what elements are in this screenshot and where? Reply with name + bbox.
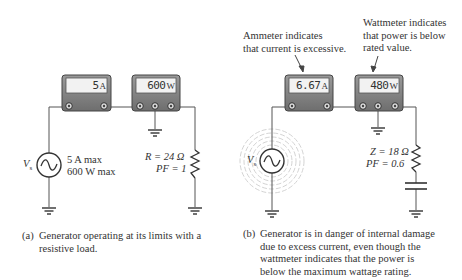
capacitor-icon xyxy=(405,183,427,189)
ammeter-a-display: 5A xyxy=(66,80,106,92)
ground-icon xyxy=(42,208,56,214)
wattmeter-b-value: 480 xyxy=(370,79,388,92)
ammeter-a-unit: A xyxy=(100,81,107,91)
annotation-wattmeter: Wattmeter indicates that power is below … xyxy=(363,17,446,55)
source-a-label: Vs xyxy=(23,158,32,175)
ammeter-a-value: 5 xyxy=(92,79,98,92)
source-b-label: Vs xyxy=(247,154,256,171)
caption-a-text: Generator operating at its limits with a… xyxy=(39,230,201,255)
load-b-impedance: Z = 18 Ω xyxy=(370,146,409,159)
caption-b-label: (b) xyxy=(243,228,255,241)
resistor-icon xyxy=(412,145,420,172)
ammeter-b-display: 6.67A xyxy=(289,80,328,92)
ammeter-b-unit: A xyxy=(322,81,329,91)
figure-a xyxy=(37,75,202,214)
wattmeter-a-unit: W xyxy=(167,81,176,91)
wattmeter-a-display: 600W xyxy=(136,80,175,92)
source-a-current-rating: 5 A max xyxy=(67,154,102,167)
source-a-power-rating: 600 W max xyxy=(67,166,116,179)
ground-icon xyxy=(371,128,385,134)
ground-icon xyxy=(148,130,162,136)
caption-a-label: (a) xyxy=(22,230,34,243)
ac-source-icon xyxy=(37,153,61,177)
ground-icon xyxy=(409,211,423,217)
ground-icon xyxy=(188,208,202,214)
wattmeter-b-unit: W xyxy=(390,81,399,91)
annotation-arrows xyxy=(295,55,378,72)
figure-b xyxy=(240,55,427,217)
wattmeter-b-display: 480W xyxy=(359,80,398,92)
caption-b-text: Generator is in danger of internal damag… xyxy=(260,228,435,278)
annotation-ammeter: Ammeter indicates that current is excess… xyxy=(243,30,346,55)
resistor-icon xyxy=(191,150,199,178)
ammeter-b-value: 6.67 xyxy=(296,79,321,92)
load-a-resistance: R = 24 Ω xyxy=(145,151,184,164)
wattmeter-a-value: 600 xyxy=(147,79,165,92)
load-a-power-factor: PF = 1 xyxy=(156,163,186,176)
load-b-power-factor: PF = 0.6 xyxy=(366,158,404,171)
ground-icon xyxy=(265,211,279,217)
ac-source-icon xyxy=(260,149,284,173)
